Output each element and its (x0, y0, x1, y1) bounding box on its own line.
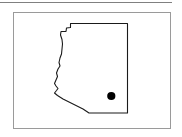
figure-page (0, 0, 182, 137)
arizona-map (0, 0, 182, 137)
arizona-state-outline (55, 24, 128, 114)
city-marker-dot (107, 92, 115, 100)
